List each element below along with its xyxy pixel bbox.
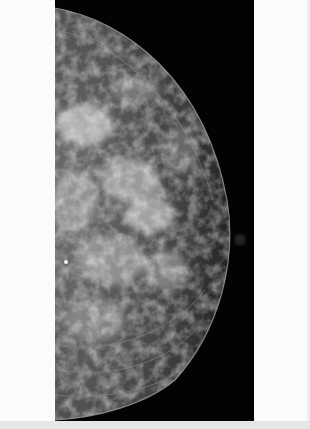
bottom-strip	[0, 421, 310, 429]
mammogram-panel	[55, 0, 254, 421]
right-edge	[307, 0, 310, 429]
calcification-marker	[64, 260, 68, 264]
nipple-marker	[235, 235, 245, 245]
mammogram-image	[55, 0, 254, 421]
